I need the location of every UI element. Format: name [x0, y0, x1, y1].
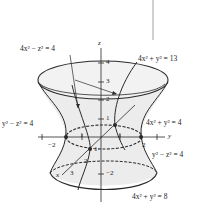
vertex-dot	[139, 135, 143, 139]
y-tick: 1	[80, 132, 84, 139]
vertex-dot	[113, 123, 117, 127]
label-trace-yz-right: y² − z² = 4	[152, 151, 183, 159]
y-axis-label: y	[168, 133, 171, 140]
top-ellipse	[38, 61, 168, 99]
z-axis-label: z	[98, 40, 101, 47]
label-trace-bottom: 4x² + y² = 8	[132, 193, 167, 201]
label-trace-top: 4x² + y² = 13	[138, 55, 177, 63]
label-trace-yz-left: y² − z² = 4	[2, 120, 33, 128]
z-tick: −2	[106, 170, 113, 177]
y-tick: 2	[142, 142, 146, 149]
y-tick: 1	[118, 132, 122, 139]
z-tick: 3	[106, 78, 110, 85]
x-tick: 1	[94, 146, 98, 153]
vertex-dot	[88, 147, 92, 151]
x-tick: 2	[84, 158, 88, 165]
hyperboloid-diagram	[0, 0, 207, 207]
vertex-dot	[64, 135, 68, 139]
label-trace-xz: 4x² − z² = 4	[20, 45, 55, 53]
y-tick: −2	[48, 142, 55, 149]
z-tick: 4	[106, 59, 110, 66]
x-axis-label: x	[56, 172, 59, 179]
z-tick: 1	[106, 115, 110, 122]
label-trace-middle: 4x² + y² = 4	[146, 119, 181, 127]
z-tick: 2	[106, 96, 110, 103]
x-tick: 3	[70, 170, 74, 177]
